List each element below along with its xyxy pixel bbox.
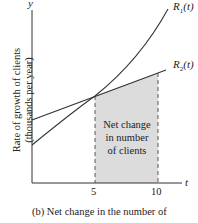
figure-caption: (b) Net change in the number of (32, 206, 167, 217)
tick-label-10: 10 (151, 186, 162, 197)
y-axis-label-line1: Rate of growth of clients (11, 25, 23, 175)
area-label-line2: in number (96, 131, 158, 144)
tick-label-5: 5 (91, 186, 96, 197)
r1-label-arg: (t) (183, 0, 193, 12)
area-label-line1: Net change (96, 118, 158, 131)
r1-label: R1(t) (173, 0, 194, 15)
r2-label-arg: (t) (183, 58, 193, 70)
shaded-region-label: Net change in number of clients (96, 118, 158, 157)
y-axis-label-line2: (thousands per year) (23, 25, 35, 175)
y-axis-symbol: y (28, 0, 33, 9)
t-axis-symbol: t (185, 176, 188, 188)
area-label-line3: of clients (96, 144, 158, 157)
r2-label: R2(t) (173, 58, 194, 73)
y-axis-label: Rate of growth of clients (thousands per… (11, 25, 35, 175)
r2-label-r: R (173, 58, 180, 70)
r1-label-r: R (173, 0, 180, 12)
